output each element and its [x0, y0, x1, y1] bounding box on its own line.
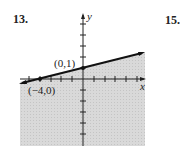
label-point-neg4-0: (−4,0) — [28, 84, 56, 97]
x-axis-label: x — [139, 80, 145, 92]
inequality-graph: (0,1) (−4,0) x y — [0, 0, 182, 162]
label-point-0-1: (0,1) — [54, 57, 75, 70]
point-0-1 — [81, 66, 85, 70]
y-axis-arrow-icon — [81, 13, 85, 19]
y-axis-label: y — [86, 10, 92, 22]
point-neg4-0 — [38, 77, 42, 81]
